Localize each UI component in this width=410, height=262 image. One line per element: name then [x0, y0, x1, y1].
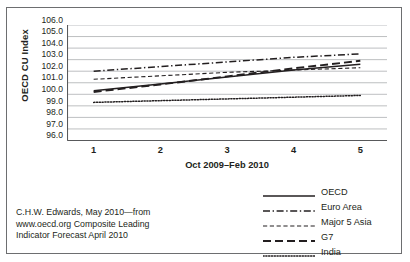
legend-swatch-icon [263, 202, 315, 212]
x-axis-tick-labels: 12345 [67, 145, 387, 159]
caption-line: Indicator Forecast April 2010 [16, 230, 216, 242]
y-axis-tick-label: 106.0 [23, 16, 63, 25]
legend-label: G7 [321, 232, 333, 242]
x-axis-title: Oct 2009–Feb 2010 [67, 160, 387, 170]
chart-svg [67, 25, 387, 141]
legend-label: India [321, 247, 341, 257]
legend-item-oecd[interactable]: OECD [263, 184, 398, 199]
y-axis-tick-label: 104.0 [23, 39, 63, 48]
legend-label: Euro Area [321, 202, 362, 212]
legend-label: Major 5 Asia [321, 217, 372, 227]
y-axis-tick-label: 97.0 [23, 120, 63, 129]
y-axis-tick-labels: 106.0105.0104.0103.0102.0101.0100.099.09… [23, 20, 63, 148]
legend-item-g7[interactable]: G7 [263, 230, 398, 245]
y-axis-tick-label: 103.0 [23, 50, 63, 59]
legend-label: OECD [321, 187, 348, 197]
legend-swatch-icon [263, 247, 315, 257]
legend-swatch-icon [263, 187, 315, 197]
y-axis-tick-label: 99.0 [23, 97, 63, 106]
x-axis-tick-label: 2 [150, 145, 170, 155]
x-axis-tick-label: 5 [350, 145, 370, 155]
x-axis-tick-label: 4 [284, 145, 304, 155]
gridlines [67, 25, 387, 141]
chart-legend: OECDEuro AreaMajor 5 AsiaG7India [263, 184, 398, 260]
series-line-g7 [94, 61, 361, 92]
legend-item-india[interactable]: India [263, 245, 398, 260]
plot-wrapper: OECD CU Index 106.0105.0104.0103.0102.01… [7, 8, 403, 156]
x-axis-tick-label: 3 [217, 145, 237, 155]
y-axis-tick-label: 98.0 [23, 108, 63, 117]
figure-panel: OECD CU Index 106.0105.0104.0103.0102.01… [6, 7, 402, 254]
legend-swatch-icon [263, 232, 315, 242]
x-axis-tick-label: 1 [84, 145, 104, 155]
caption-line: C.H.W. Edwards, May 2010—from [16, 207, 216, 219]
caption-line: www.oecd.org Composite Leading [16, 219, 216, 231]
source-caption: C.H.W. Edwards, May 2010—fromwww.oecd.or… [16, 207, 216, 242]
series-line-india [94, 95, 361, 102]
y-axis-tick-label: 105.0 [23, 27, 63, 36]
plot-area [67, 25, 387, 141]
legend-item-major-5-asia[interactable]: Major 5 Asia [263, 214, 398, 229]
legend-item-euro-area[interactable]: Euro Area [263, 199, 398, 214]
y-axis-tick-label: 96.0 [23, 131, 63, 140]
legend-swatch-icon [263, 217, 315, 227]
y-axis-tick-label: 102.0 [23, 62, 63, 71]
y-axis-tick-label: 101.0 [23, 73, 63, 82]
data-series [94, 54, 361, 103]
y-axis-tick-label: 100.0 [23, 85, 63, 94]
